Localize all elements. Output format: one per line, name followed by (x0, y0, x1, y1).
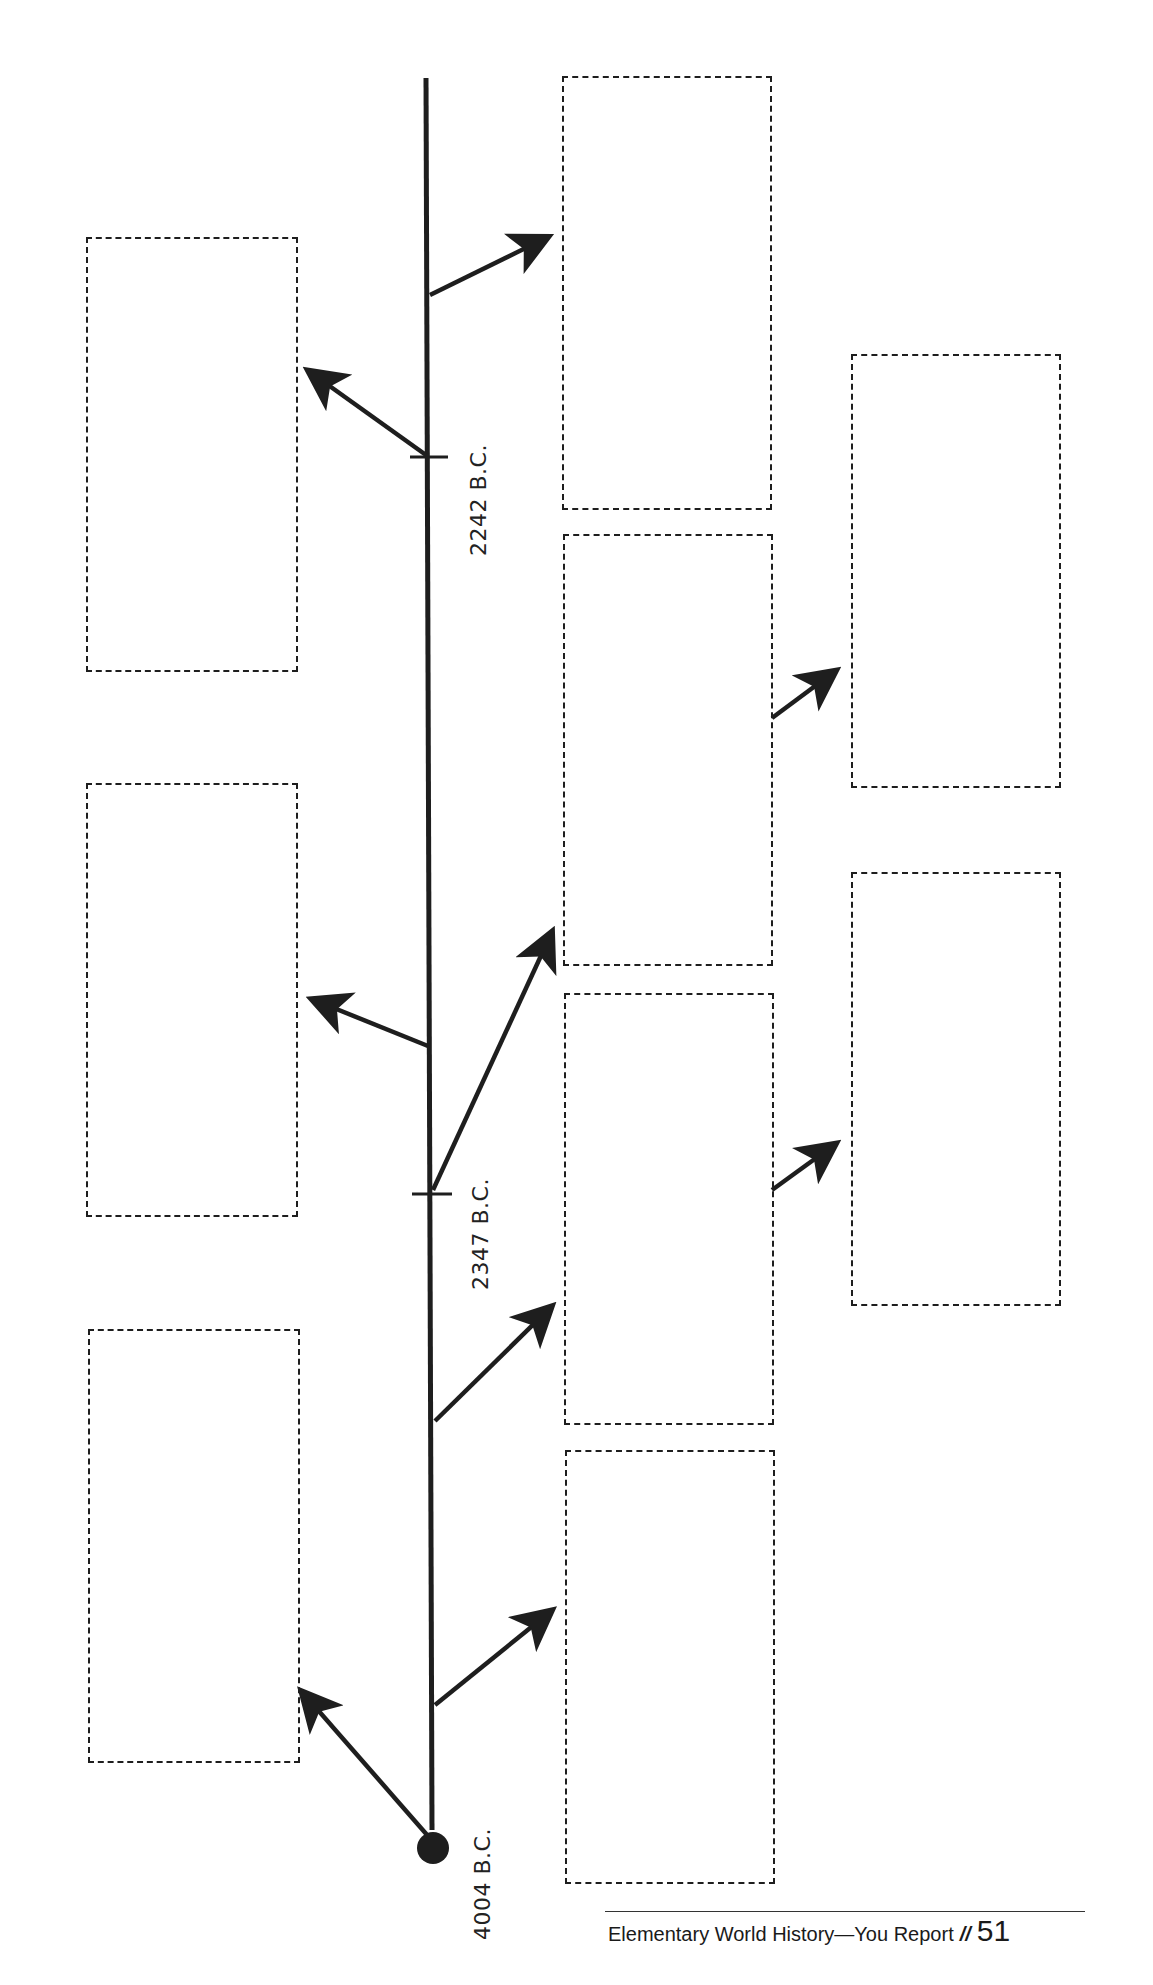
arrow-to-right-1 (772, 672, 834, 718)
arrow-to-right-2 (772, 1145, 834, 1190)
timeline-worksheet: 2242 B.C. 2347 B.C. 4004 B.C. Elementary… (0, 0, 1153, 1985)
date-label-2347: 2347 B.C. (468, 1178, 493, 1290)
arrow-to-center-4 (435, 1612, 550, 1705)
timeline-axis (426, 78, 432, 1830)
arrow-to-center-3 (435, 1308, 550, 1421)
date-label-4004: 4004 B.C. (470, 1828, 495, 1940)
start-dot (417, 1832, 449, 1864)
page-footer: Elementary World History—You Report // 5… (608, 1914, 1010, 1948)
arrow-to-left-3 (303, 1693, 428, 1836)
arrow-to-center-2 (433, 934, 551, 1190)
date-label-2242: 2242 B.C. (466, 444, 491, 556)
page-number: 51 (977, 1914, 1010, 1948)
arrow-to-left-1 (310, 372, 426, 455)
footer-title: Elementary World History—You Report (608, 1923, 954, 1946)
timeline-graphic (0, 0, 1153, 1985)
footer-separator-icon: // (960, 1923, 971, 1946)
footer-rule (605, 1911, 1085, 1912)
arrow-to-center-1 (430, 238, 546, 295)
arrow-to-left-2 (314, 1000, 428, 1046)
